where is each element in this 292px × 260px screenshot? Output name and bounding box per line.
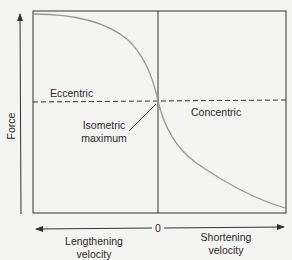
shortening-label-line2: velocity (208, 244, 244, 256)
isometric-pointer-line (129, 104, 156, 131)
isometric-label-line2: maximum (81, 132, 127, 144)
isometric-label-line1: Isometric (83, 119, 126, 131)
plot-frame (33, 11, 286, 213)
eccentric-label: Eccentric (50, 87, 93, 99)
concentric-label: Concentric (191, 106, 241, 118)
lengthening-label-line2: velocity (76, 248, 112, 260)
x-origin-label: 0 (155, 222, 161, 234)
shortening-label-line1: Shortening (201, 231, 252, 243)
force-velocity-chart: Force Eccentric Concentric Isometric max… (0, 0, 292, 260)
y-axis-label: Force (5, 112, 17, 139)
lengthening-label-line1: Lengthening (65, 235, 123, 247)
y-axis-arrow (20, 14, 21, 214)
x-axis-left-arrow (36, 228, 152, 229)
isometric-dashed-line (33, 100, 286, 102)
x-axis-right-arrow (164, 227, 284, 228)
force-velocity-curve (33, 14, 285, 208)
